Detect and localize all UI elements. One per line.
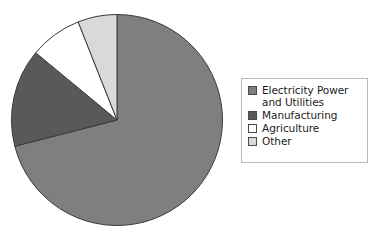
legend-swatch-agriculture: [248, 124, 257, 133]
legend-item-other[interactable]: Other: [248, 135, 362, 147]
legend-swatch-electricity-power-and-utilities: [248, 86, 257, 95]
legend-item-agriculture[interactable]: Agriculture: [248, 122, 362, 134]
pie-chart-figure: Electricity Power and Utilities Manufact…: [0, 0, 386, 238]
legend-item-manufacturing[interactable]: Manufacturing: [248, 109, 362, 121]
pie-slice-group: [11, 15, 222, 226]
legend-label-agriculture: Agriculture: [262, 122, 319, 134]
legend-label-other: Other: [262, 135, 292, 147]
legend-label-electricity-power-and-utilities: Electricity Power and Utilities: [262, 84, 362, 108]
chart-legend: Electricity Power and Utilities Manufact…: [241, 78, 368, 163]
legend-label-manufacturing: Manufacturing: [262, 109, 337, 121]
legend-swatch-manufacturing: [248, 111, 257, 120]
legend-swatch-other: [248, 137, 257, 146]
legend-item-electricity-power-and-utilities[interactable]: Electricity Power and Utilities: [248, 84, 362, 108]
